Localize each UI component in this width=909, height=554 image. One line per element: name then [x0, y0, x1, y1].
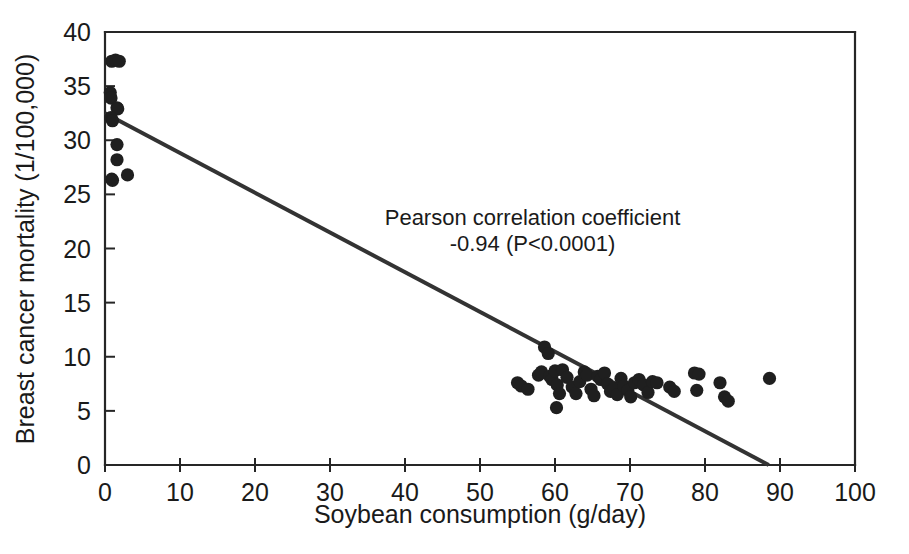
data-point — [650, 376, 663, 389]
data-point — [692, 367, 705, 380]
x-tick-label-20: 20 — [241, 478, 269, 506]
x-axis-title: Soybean consumption (g/day) — [314, 500, 646, 528]
pearson-annotation-line-1: Pearson correlation coefficient — [385, 205, 681, 230]
data-point — [106, 114, 119, 127]
x-tick-label-80: 80 — [691, 478, 719, 506]
data-point — [550, 401, 563, 414]
data-point — [110, 153, 123, 166]
scatter-plot: 0510152025303540 0102030405060708090100 … — [0, 0, 909, 554]
y-axis-title: Breast cancer mortality (1/100,000) — [11, 54, 39, 444]
y-tick-label-10: 10 — [63, 343, 91, 371]
data-point — [521, 383, 534, 396]
y-tick-label-30: 30 — [63, 126, 91, 154]
data-point — [542, 347, 555, 360]
data-point — [121, 168, 134, 181]
y-tick-label-25: 25 — [63, 180, 91, 208]
data-point — [624, 390, 637, 403]
data-point — [668, 385, 681, 398]
data-point — [553, 387, 566, 400]
y-tick-label-40: 40 — [63, 18, 91, 46]
y-tick-label-0: 0 — [77, 451, 91, 479]
chart-figure: 0510152025303540 0102030405060708090100 … — [0, 0, 909, 554]
x-tick-label-0: 0 — [98, 478, 112, 506]
data-point — [713, 376, 726, 389]
y-tick-label-5: 5 — [77, 397, 91, 425]
x-tick-label-10: 10 — [166, 478, 194, 506]
data-point — [106, 174, 119, 187]
data-point — [110, 138, 123, 151]
y-tick-label-20: 20 — [63, 235, 91, 263]
y-tick-label-15: 15 — [63, 289, 91, 317]
data-point — [763, 372, 776, 385]
y-tick-label-35: 35 — [63, 72, 91, 100]
data-point — [722, 395, 735, 408]
pearson-annotation-line-2: -0.94 (P<0.0001) — [450, 231, 616, 256]
x-tick-label-90: 90 — [766, 478, 794, 506]
data-point — [587, 389, 600, 402]
x-tick-label-100: 100 — [834, 478, 876, 506]
data-point — [690, 384, 703, 397]
figure-background — [0, 0, 909, 554]
data-point — [569, 387, 582, 400]
data-point — [113, 55, 126, 68]
